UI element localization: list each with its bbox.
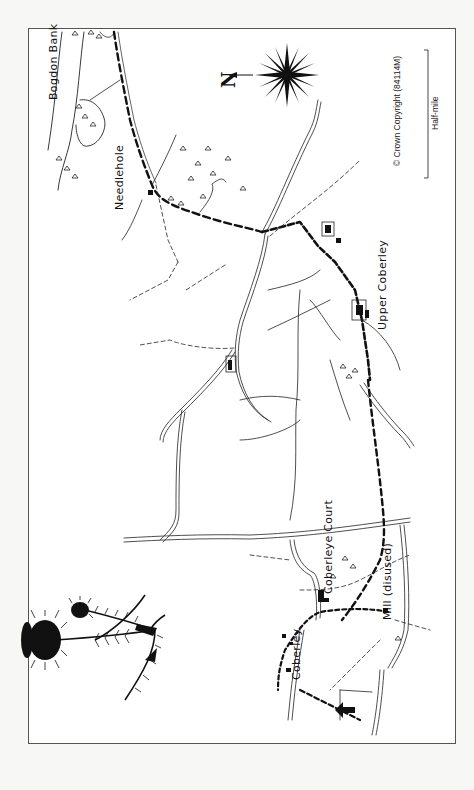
route-path: [262, 222, 370, 380]
road: [360, 385, 410, 448]
footpath: [186, 265, 225, 290]
scale-bar-label: Half-mile: [430, 96, 440, 130]
field-boundary: [152, 135, 176, 185]
place-label-coberley: Coberley: [290, 629, 303, 680]
field-boundary: [330, 360, 350, 420]
road: [160, 350, 232, 440]
field-boundary: [90, 80, 120, 100]
place-label-bogdon-bank: Bogdon Bank: [47, 24, 60, 100]
footpath: [395, 620, 430, 630]
bank-edge: [58, 32, 84, 190]
map-canvas: [0, 0, 474, 790]
footpath: [140, 340, 234, 348]
road: [265, 102, 321, 234]
field-boundary: [268, 270, 320, 290]
north-label: N: [218, 72, 239, 88]
footpath: [330, 640, 380, 690]
road: [372, 670, 380, 735]
field-boundary: [310, 300, 340, 340]
wood-boundary: [76, 100, 105, 147]
trees: [56, 30, 401, 640]
place-label-mill: Mill (disused): [381, 543, 394, 620]
thistle-illustration: [21, 595, 165, 700]
place-label-upper-coberley: Upper Coberley: [376, 240, 389, 330]
road: [163, 352, 235, 442]
footpath: [270, 160, 360, 236]
compass-rose-icon: [229, 43, 319, 107]
scale-bar: [424, 50, 428, 178]
place-label-needlehole: Needlehole: [113, 145, 126, 210]
place-label-coberley-court: Coberleye Court: [322, 500, 335, 594]
buildings: [148, 190, 388, 672]
route-path: [114, 32, 262, 232]
copyright-text: © Crown Copyright (84114M): [392, 56, 402, 166]
road: [290, 540, 317, 620]
footpath: [250, 555, 290, 560]
field-boundary: [100, 32, 114, 37]
field-boundary: [290, 290, 300, 520]
field-boundary: [340, 690, 372, 692]
field-boundary: [240, 420, 300, 440]
road: [262, 100, 318, 232]
road: [124, 522, 410, 542]
footpath: [130, 262, 178, 300]
road: [238, 236, 271, 422]
road: [392, 525, 409, 668]
route-path: [300, 690, 360, 720]
